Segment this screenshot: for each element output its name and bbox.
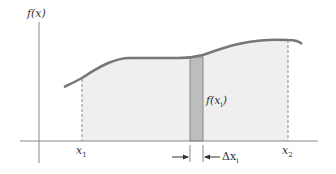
x1-label: x1: [76, 145, 87, 159]
x2-label-sub: 2: [288, 151, 292, 159]
y-axis-label: f(x): [27, 8, 46, 19]
delta-x-sub: i: [236, 157, 238, 165]
arrowhead-right-icon: [183, 155, 189, 160]
x2-label: x2: [282, 145, 293, 159]
rect-height-label: f(xi): [206, 95, 227, 109]
delta-x-label: Δxi: [222, 151, 238, 165]
delta-x-main: Δx: [222, 150, 236, 163]
arrowhead-left-icon: [204, 155, 210, 160]
fxi-main: f(x: [206, 94, 221, 107]
fxi-close: ): [223, 94, 227, 107]
x1-label-sub: 1: [82, 151, 86, 159]
riemann-rectangle: [190, 57, 203, 141]
shaded-region: [82, 40, 288, 141]
